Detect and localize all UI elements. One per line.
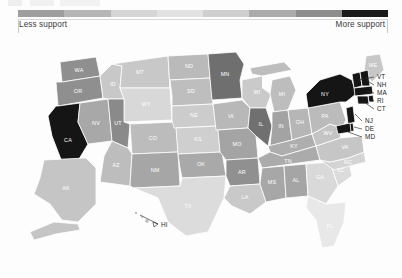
state-label-AK: AK	[62, 185, 70, 191]
state-label-UT: UT	[114, 120, 122, 126]
leader-arrow-HI	[153, 222, 158, 227]
legend-gradient-bar	[18, 10, 388, 17]
hawaii-islands[interactable]	[134, 211, 149, 223]
map-figure: Less support More support	[0, 0, 402, 278]
state-label-ID: ID	[110, 81, 116, 87]
color-scale-legend: Less support More support	[18, 10, 388, 35]
hawaii-callout: HI	[140, 215, 168, 228]
legend-swatch-8	[342, 10, 388, 17]
state-label-TX: TX	[184, 203, 191, 209]
leader-line-DE	[354, 127, 362, 129]
callout-label-CT: CT	[377, 105, 386, 112]
state-label-WI: WI	[254, 89, 261, 95]
state-label-MT: MT	[136, 69, 145, 75]
legend-label-more-support: More support	[336, 20, 385, 29]
state-label-WV: WV	[324, 130, 333, 136]
callout-label-NH: NH	[377, 81, 387, 88]
state-label-AZ: AZ	[112, 162, 120, 168]
legend-divider	[18, 19, 388, 20]
state-label-IN: IN	[278, 123, 284, 129]
state-label-NM: NM	[151, 167, 160, 173]
state-label-NV: NV	[92, 120, 100, 126]
state-FL[interactable]	[306, 196, 346, 248]
state-label-ND: ND	[185, 63, 193, 69]
legend-label-less-support: Less support	[19, 20, 67, 29]
callout-label-VT: VT	[377, 73, 385, 80]
state-label-MI: MI	[279, 91, 285, 97]
legend-swatch-4	[157, 10, 203, 17]
state-label-MN: MN	[221, 71, 230, 77]
state-label-VA: VA	[341, 144, 348, 150]
state-NY[interactable]	[306, 74, 356, 108]
legend-swatch-5	[203, 10, 249, 17]
us-choropleth-map: WA OR CA NV ID MT WY UT CO AZ NM ND SD N…	[0, 36, 402, 278]
state-label-SC: SC	[337, 167, 345, 173]
state-CT[interactable]	[357, 96, 369, 104]
state-label-AL: AL	[293, 177, 300, 183]
state-label-KY: KY	[290, 143, 298, 149]
callout-label-HI: HI	[161, 221, 168, 228]
state-label-IA: IA	[228, 113, 234, 119]
state-label-LA: LA	[242, 194, 249, 200]
callout-label-MA: MA	[377, 89, 387, 96]
legend-swatch-7	[296, 10, 342, 17]
state-label-KS: KS	[194, 136, 202, 142]
state-label-CA: CA	[64, 137, 72, 143]
state-label-WY: WY	[142, 101, 151, 107]
legend-swatch-2	[64, 10, 110, 17]
callout-label-DE: DE	[365, 125, 374, 132]
leader-line-NJ	[355, 114, 362, 121]
state-label-WA: WA	[75, 67, 84, 73]
legend-tick-right	[387, 20, 388, 33]
callout-label-RI: RI	[377, 97, 384, 104]
state-label-CO: CO	[149, 135, 157, 141]
state-label-AR: AR	[238, 169, 246, 175]
legend-swatch-1	[18, 10, 64, 17]
state-MA[interactable]	[354, 86, 373, 96]
state-label-FL: FL	[327, 223, 334, 229]
state-label-NE: NE	[190, 112, 198, 118]
state-NJ[interactable]	[346, 106, 355, 124]
state-label-MS: MS	[268, 179, 277, 185]
state-label-IL: IL	[259, 121, 264, 127]
state-label-SD: SD	[187, 88, 195, 94]
state-label-NC: NC	[344, 159, 352, 165]
cropped-title-sliver	[8, 0, 128, 6]
state-label-OR: OR	[74, 88, 82, 94]
state-label-MO: MO	[233, 141, 242, 147]
state-label-OH: OH	[296, 119, 304, 125]
state-label-TN: TN	[284, 158, 292, 164]
state-label-NY: NY	[321, 91, 329, 97]
callout-label-NJ: NJ	[365, 117, 373, 124]
state-label-PA: PA	[321, 113, 328, 119]
legend-label-row: Less support More support	[18, 20, 388, 35]
state-MI2	[250, 62, 292, 76]
callout-label-MD: MD	[365, 133, 375, 140]
state-AK-aleutians	[30, 222, 80, 240]
state-label-ME: ME	[369, 62, 378, 68]
legend-swatch-3	[111, 10, 157, 17]
state-label-OK: OK	[197, 161, 205, 167]
legend-swatch-6	[249, 10, 295, 17]
state-label-GA: GA	[316, 174, 324, 180]
